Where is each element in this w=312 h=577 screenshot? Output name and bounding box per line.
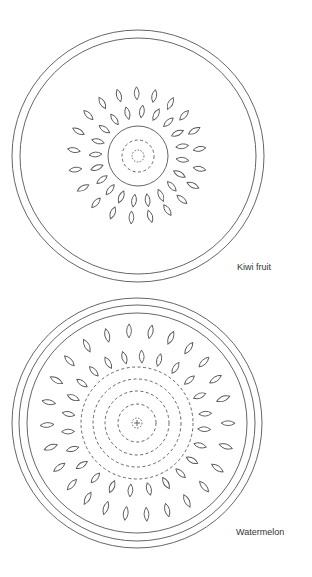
seed xyxy=(178,109,190,122)
seed xyxy=(66,393,80,403)
solid-ring xyxy=(108,126,168,186)
seed xyxy=(97,96,108,110)
seed xyxy=(107,480,116,494)
seed xyxy=(193,391,207,400)
seed xyxy=(62,410,76,417)
solid-ring xyxy=(12,30,264,282)
seed xyxy=(175,193,188,205)
seed xyxy=(166,330,176,345)
seed xyxy=(41,398,56,406)
seed xyxy=(62,429,75,434)
seed xyxy=(176,157,190,163)
seed xyxy=(198,426,211,431)
seed xyxy=(183,341,195,355)
seed xyxy=(208,373,222,385)
seed xyxy=(197,355,210,368)
seed xyxy=(151,108,161,122)
seed xyxy=(218,442,233,451)
seed xyxy=(43,442,58,452)
seed xyxy=(193,165,207,172)
seed xyxy=(101,501,110,516)
seed xyxy=(185,455,199,465)
seed xyxy=(63,354,76,367)
seed xyxy=(81,338,92,353)
seed xyxy=(82,109,95,122)
seed xyxy=(127,324,132,338)
seed xyxy=(82,491,93,506)
seed xyxy=(65,478,78,492)
seed xyxy=(103,356,114,370)
seed xyxy=(165,97,175,111)
seed xyxy=(210,462,224,474)
seed xyxy=(162,203,173,216)
seed xyxy=(75,460,89,471)
seed xyxy=(120,351,128,365)
seed xyxy=(131,194,138,208)
seed xyxy=(193,441,207,449)
seed xyxy=(49,375,64,386)
seed xyxy=(156,188,166,202)
seed xyxy=(139,105,146,119)
seed xyxy=(174,467,187,479)
seed xyxy=(144,507,150,521)
seed xyxy=(166,180,178,193)
seed xyxy=(129,211,134,224)
seed xyxy=(76,183,90,193)
seed xyxy=(108,206,117,220)
seed xyxy=(52,461,66,473)
center-cross-icon xyxy=(134,420,140,426)
fruit-cross-section-diagram: Kiwi fruit Watermelon xyxy=(0,0,312,577)
seed xyxy=(72,126,86,136)
kiwi-label: Kiwi fruit xyxy=(237,262,272,272)
seed xyxy=(128,484,134,497)
seed xyxy=(90,163,104,172)
seed xyxy=(193,145,207,152)
seed xyxy=(163,503,171,518)
seed xyxy=(98,124,111,135)
seed xyxy=(186,180,200,190)
seed xyxy=(170,128,184,138)
seed xyxy=(161,476,172,490)
seed xyxy=(199,411,212,417)
seed xyxy=(90,196,102,209)
seed xyxy=(69,166,83,173)
kiwi-cross-section xyxy=(12,30,264,282)
seed xyxy=(139,350,144,363)
seed xyxy=(175,143,189,149)
seed xyxy=(88,365,100,378)
seed xyxy=(147,324,155,339)
seed xyxy=(103,328,111,343)
seed xyxy=(145,482,153,496)
seed xyxy=(134,87,139,100)
seed xyxy=(182,494,193,509)
seed xyxy=(146,209,154,223)
seed xyxy=(198,480,211,494)
dashed-ring xyxy=(122,140,154,172)
seed xyxy=(124,106,132,120)
seed xyxy=(75,377,88,388)
seed xyxy=(144,193,150,206)
seed xyxy=(89,152,102,158)
watermelon-label: Watermelon xyxy=(236,527,284,537)
seed xyxy=(95,174,108,186)
seed xyxy=(67,147,81,154)
seed xyxy=(221,421,235,426)
seed xyxy=(91,137,105,145)
dashed-ring xyxy=(132,150,144,162)
seed xyxy=(109,113,120,126)
seed xyxy=(122,506,129,521)
seed xyxy=(187,125,201,136)
seed xyxy=(155,353,163,367)
seed xyxy=(216,394,231,404)
seed xyxy=(115,89,123,103)
seed xyxy=(104,183,116,196)
seed xyxy=(151,89,158,103)
seed xyxy=(162,116,175,128)
seed xyxy=(40,422,54,428)
seed xyxy=(66,445,80,453)
seed xyxy=(183,374,196,386)
watermelon-cross-section xyxy=(12,298,262,548)
seed xyxy=(116,190,126,204)
seed xyxy=(89,471,101,484)
seed xyxy=(173,169,187,179)
